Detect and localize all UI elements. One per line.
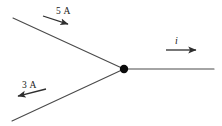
wire-lower-left: [12, 69, 124, 121]
label-current-i: i: [175, 36, 178, 46]
wire-upper-left: [13, 18, 124, 69]
label-current-5a: 5 A: [56, 7, 71, 17]
junction-node: [120, 65, 128, 73]
circuit-svg-canvas: [0, 0, 222, 126]
arrow-5a-icon: [43, 16, 68, 24]
label-current-3a: 3 A: [22, 81, 37, 91]
circuit-junction-diagram: 5 A 3 A i: [0, 0, 222, 126]
